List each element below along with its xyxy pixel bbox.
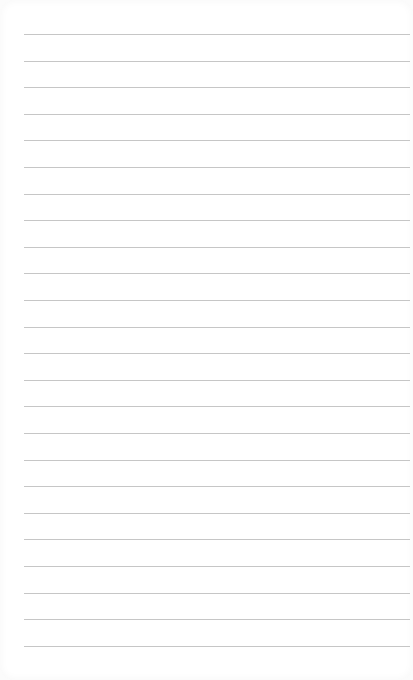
ruled-line (24, 220, 410, 221)
ruled-line (24, 619, 410, 620)
ruled-line (24, 273, 410, 274)
ruled-line (24, 34, 410, 35)
ruled-line (24, 167, 410, 168)
ruled-line (24, 539, 410, 540)
ruled-line (24, 327, 410, 328)
ruled-line (24, 486, 410, 487)
ruled-line (24, 140, 410, 141)
ruled-line (24, 513, 410, 514)
ruled-line (24, 646, 410, 647)
ruled-line (24, 406, 410, 407)
ruled-line (24, 194, 410, 195)
lined-paper (0, 0, 413, 680)
ruled-line (24, 114, 410, 115)
ruled-line (24, 380, 410, 381)
ruled-line (24, 300, 410, 301)
ruled-line (24, 460, 410, 461)
ruled-line (24, 433, 410, 434)
ruled-line (24, 593, 410, 594)
ruled-line (24, 353, 410, 354)
ruled-line (24, 247, 410, 248)
ruled-line (24, 566, 410, 567)
ruled-line (24, 87, 410, 88)
ruled-line (24, 61, 410, 62)
